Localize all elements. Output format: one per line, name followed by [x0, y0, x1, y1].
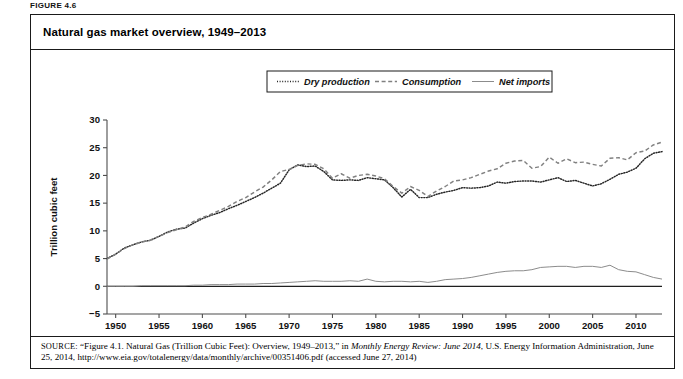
y-tick-label: 0 — [95, 281, 100, 292]
x-tick-label: 2010 — [625, 320, 646, 331]
line-chart: Dry productionConsumptionNet imports−505… — [31, 49, 674, 332]
source-part1: “Figure 4.1. Natural Gas (Trillion Cubic… — [78, 341, 351, 351]
y-tick-label: 5 — [95, 253, 101, 264]
y-axis-title: Trillion cubic feet — [48, 177, 59, 257]
x-tick-label: 2000 — [539, 320, 560, 331]
x-tick-label: 1980 — [365, 320, 386, 331]
x-tick-label: 1985 — [409, 320, 431, 331]
series-line-dry-production — [107, 152, 662, 259]
x-tick-label: 1990 — [452, 320, 473, 331]
y-tick-label: 30 — [89, 114, 100, 125]
source-italic-title: Monthly Energy Review: June 2014 — [351, 341, 481, 351]
source-text: SOURCE: “Figure 4.1. Natural Gas (Trilli… — [41, 341, 664, 364]
y-tick-label: 20 — [89, 170, 100, 181]
legend-label: Consumption — [402, 77, 462, 87]
x-tick-label: 1970 — [278, 320, 299, 331]
x-tick-label: 1965 — [235, 320, 257, 331]
x-tick-label: 1975 — [322, 320, 344, 331]
chart-plot-area: Dry productionConsumptionNet imports−505… — [31, 49, 674, 332]
legend-label: Dry production — [304, 77, 370, 87]
figure-container: Natural gas market overview, 1949–2013 D… — [30, 14, 675, 369]
y-tick-label: −5 — [89, 308, 101, 319]
series-line-net-imports — [107, 265, 662, 286]
source-prefix: SOURCE: — [41, 342, 78, 351]
y-tick-label: 10 — [89, 225, 100, 236]
y-tick-label: 25 — [89, 142, 100, 153]
source-note: SOURCE: “Figure 4.1. Natural Gas (Trilli… — [31, 336, 674, 368]
chart-title: Natural gas market overview, 1949–2013 — [43, 26, 266, 38]
x-tick-label: 1960 — [192, 320, 213, 331]
y-tick-label: 15 — [89, 197, 100, 208]
x-tick-label: 1950 — [105, 320, 126, 331]
series-line-consumption — [107, 142, 662, 259]
figure-label: FIGURE 4.6 — [30, 1, 77, 10]
legend-label: Net imports — [499, 77, 550, 87]
x-tick-label: 1955 — [148, 320, 170, 331]
x-tick-label: 1995 — [495, 320, 517, 331]
x-tick-label: 2005 — [582, 320, 604, 331]
